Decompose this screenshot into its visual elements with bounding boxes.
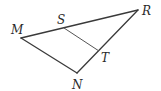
segment-MR: [21, 10, 138, 38]
segment-ST: [64, 28, 99, 51]
segment-NM: [21, 38, 77, 73]
label-N: N: [71, 78, 83, 91]
triangle-diagram: M R N S T: [0, 0, 161, 91]
label-T: T: [101, 51, 110, 65]
label-M: M: [10, 23, 24, 37]
label-R: R: [141, 4, 151, 18]
label-S: S: [57, 13, 65, 27]
